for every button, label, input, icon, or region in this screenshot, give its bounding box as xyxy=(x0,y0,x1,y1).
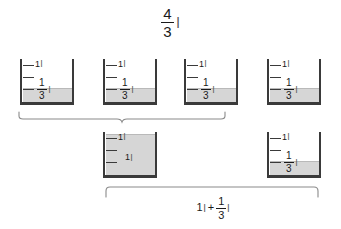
tick-mark-1l xyxy=(106,138,117,139)
capacity-value: 1 xyxy=(35,59,40,69)
beaker-capacity-label: 1l xyxy=(118,132,126,143)
capacity-value: 1 xyxy=(118,132,123,142)
beaker-level-label: 13l xyxy=(284,151,298,174)
level-unit-liter: l xyxy=(296,85,298,95)
beaker-top-1: 1l 13l xyxy=(20,59,74,105)
tick-mark-2of3 xyxy=(270,150,281,151)
tick-mark-1l xyxy=(23,65,34,66)
beaker-top-3: 1l 13l xyxy=(184,59,238,105)
tick-mark-1of3 xyxy=(106,162,117,163)
measurement-ticks xyxy=(23,59,35,105)
tick-mark-1l xyxy=(187,65,198,66)
level-numerator: 1 xyxy=(284,78,294,90)
sum-whole-value: 1 xyxy=(196,201,202,213)
level-denominator: 3 xyxy=(37,90,47,101)
tick-mark-2of3 xyxy=(187,77,198,78)
beaker-level-label: 13l xyxy=(37,78,51,101)
beaker-capacity-label: 1l xyxy=(35,59,43,70)
beaker-top-2: 1l 13l xyxy=(103,59,157,105)
capacity-unit-liter: l xyxy=(124,59,126,70)
sum-fraction-denominator: 3 xyxy=(216,209,226,221)
level-unit-liter: l xyxy=(296,158,298,168)
title-fraction-denominator: 3 xyxy=(161,23,173,39)
beaker-level-label: 13l xyxy=(201,78,215,101)
tick-mark-1of3 xyxy=(270,162,281,163)
title-unit-liter: l xyxy=(177,15,180,31)
tick-mark-1l xyxy=(106,65,117,66)
beaker-capacity-label: 1l xyxy=(282,132,290,143)
sum-unit-liter: l xyxy=(227,203,229,214)
tick-mark-2of3 xyxy=(106,77,117,78)
capacity-value: 1 xyxy=(118,59,123,69)
tick-mark-1of3 xyxy=(106,89,117,90)
sum-operator-plus: + xyxy=(208,201,214,213)
level-denominator: 3 xyxy=(201,90,211,101)
measurement-ticks xyxy=(270,59,282,105)
capacity-unit-liter: l xyxy=(288,59,290,70)
tick-mark-1l xyxy=(270,65,281,66)
sum-fraction: 13 xyxy=(216,196,226,221)
fraction-beaker-diagram: 4 3 l 1l 13l 1l 13l 1l xyxy=(0,0,341,229)
tick-mark-1l xyxy=(270,138,281,139)
measurement-ticks xyxy=(106,132,118,178)
level-fraction: 13 xyxy=(284,151,294,174)
title-fraction-numerator: 4 xyxy=(161,6,173,23)
capacity-unit-liter: l xyxy=(205,59,207,70)
amount-unit-liter: l xyxy=(131,153,133,163)
measurement-ticks xyxy=(106,59,118,105)
tick-mark-2of3 xyxy=(23,77,34,78)
level-unit-liter: l xyxy=(132,85,134,95)
tick-mark-2of3 xyxy=(270,77,281,78)
measurement-ticks xyxy=(187,59,199,105)
brace-top-shape xyxy=(18,111,226,124)
level-fraction: 13 xyxy=(37,78,47,101)
level-unit-liter: l xyxy=(49,85,51,95)
tick-mark-2of3 xyxy=(106,150,117,151)
capacity-unit-liter: l xyxy=(41,59,43,70)
beaker-capacity-label: 1l xyxy=(118,59,126,70)
beaker-top-4: 1l 13l xyxy=(267,59,321,105)
title-fraction: 4 3 xyxy=(161,6,173,39)
beaker-amount-label: 1l xyxy=(125,152,133,163)
level-numerator: 1 xyxy=(37,78,47,90)
level-denominator: 3 xyxy=(120,90,130,101)
beaker-level-label: 13l xyxy=(284,78,298,101)
amount-value: 1 xyxy=(125,152,130,162)
tick-mark-1of3 xyxy=(187,89,198,90)
capacity-value: 1 xyxy=(282,59,287,69)
beaker-bottom-full: 1l 1l xyxy=(103,132,157,178)
level-denominator: 3 xyxy=(284,90,294,101)
level-numerator: 1 xyxy=(284,151,294,163)
level-numerator: 1 xyxy=(201,78,211,90)
measurement-ticks xyxy=(270,132,282,178)
sum-whole-unit-liter: l xyxy=(204,203,206,214)
level-fraction: 13 xyxy=(201,78,211,101)
level-fraction: 13 xyxy=(284,78,294,101)
sum-fraction-numerator: 1 xyxy=(216,196,226,209)
level-fraction: 13 xyxy=(120,78,130,101)
beaker-capacity-label: 1l xyxy=(282,59,290,70)
level-denominator: 3 xyxy=(284,163,294,174)
capacity-unit-liter: l xyxy=(288,132,290,143)
title-expression: 4 3 l xyxy=(0,6,341,39)
tick-mark-1of3 xyxy=(270,89,281,90)
capacity-unit-liter: l xyxy=(124,132,126,143)
level-unit-liter: l xyxy=(213,85,215,95)
sum-expression: 1l+13l xyxy=(105,196,321,221)
beaker-level-label: 13l xyxy=(120,78,134,101)
beaker-capacity-label: 1l xyxy=(199,59,207,70)
capacity-value: 1 xyxy=(199,59,204,69)
level-numerator: 1 xyxy=(120,78,130,90)
brace-top xyxy=(18,111,226,124)
beaker-bottom-third: 1l 13l xyxy=(267,132,321,178)
tick-mark-1of3 xyxy=(23,89,34,90)
capacity-value: 1 xyxy=(282,132,287,142)
